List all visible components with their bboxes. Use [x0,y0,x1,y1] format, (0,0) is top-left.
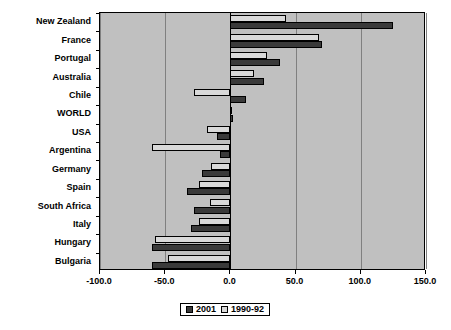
bar-2001 [202,170,231,177]
bar-2001 [187,188,230,195]
category-label: Chile [69,90,91,100]
bar-1990-92 [230,52,267,59]
bar-1990-92 [168,255,231,262]
bar-2001 [217,133,230,140]
bar-group [100,234,424,252]
category-tick [96,197,100,198]
category-tick [96,234,100,235]
category-label: Hungary [54,237,91,247]
plot-area [99,12,425,270]
bar-group [100,50,424,68]
bar-group [100,216,424,234]
category-label: France [61,35,91,45]
category-tick [96,31,100,32]
value-tick [360,270,361,274]
bar-group [100,253,424,271]
category-tick [96,87,100,88]
dark-square-swatch [186,306,193,313]
bar-1990-92 [230,34,319,41]
category-tick [96,253,100,254]
bar-1990-92 [207,126,230,133]
legend-label: 1990-92 [231,304,264,314]
bar-group [100,124,424,142]
bar-1990-92 [230,107,232,114]
category-label: Argentina [49,145,91,155]
category-tick [96,160,100,161]
category-label: South Africa [38,201,91,211]
bar-group [100,105,424,123]
bar-2001 [230,78,264,85]
bar-2001 [230,41,321,48]
bar-group [100,13,424,31]
bar-1990-92 [230,15,286,22]
bar-2001 [230,115,233,122]
bar-2001 [230,22,393,29]
bar-2001 [230,59,280,66]
bar-group [100,31,424,49]
bar-2001 [220,151,230,158]
bar-1990-92 [199,218,230,225]
category-label: Australia [52,72,91,82]
bar-chart: New ZealandFrancePortugalAustraliaChileW… [0,0,451,330]
value-tick-label: -100.0 [69,276,129,286]
value-tick-label: 0.0 [199,276,259,286]
bar-1990-92 [211,163,231,170]
category-tick [96,179,100,180]
bar-1990-92 [199,181,230,188]
value-tick [229,270,230,274]
bar-2001 [152,262,230,269]
category-tick [96,216,100,217]
category-label: Bulgaria [55,256,91,266]
category-label: Germany [52,164,91,174]
bar-group [100,179,424,197]
bar-1990-92 [230,70,253,77]
bar-1990-92 [152,144,230,151]
bar-group [100,197,424,215]
value-tick-label: -50.0 [134,276,194,286]
value-tick [425,270,426,274]
category-label: Spain [66,182,91,192]
category-axis-labels: New ZealandFrancePortugalAustraliaChileW… [0,12,95,270]
category-label: Portugal [54,53,91,63]
bar-2001 [230,96,246,103]
category-label: New Zealand [36,16,91,26]
light-square-swatch [221,306,228,313]
legend-label: 2001 [196,304,216,314]
category-tick [96,142,100,143]
bar-rows [100,13,424,269]
value-tick [99,270,100,274]
gridline [426,13,427,269]
bar-group [100,68,424,86]
chart-legend: 2001 1990-92 [180,303,270,316]
category-label: USA [72,127,91,137]
category-tick [96,50,100,51]
value-tick [295,270,296,274]
value-tick [164,270,165,274]
category-tick [96,13,100,14]
category-tick [96,124,100,125]
bar-2001 [194,207,231,214]
value-tick-label: 50.0 [265,276,325,286]
bar-1990-92 [194,89,231,96]
bar-1990-92 [155,236,231,243]
value-tick-label: 100.0 [330,276,390,286]
bar-group [100,142,424,160]
legend-item-1990-92: 1990-92 [221,304,264,314]
category-label: Italy [73,219,91,229]
legend-item-2001: 2001 [186,304,216,314]
bar-group [100,87,424,105]
bar-2001 [152,244,230,251]
bar-2001 [191,225,230,232]
value-tick-label: 150.0 [395,276,451,286]
category-tick [96,105,100,106]
category-label: WORLD [57,108,91,118]
bar-1990-92 [210,199,231,206]
bar-group [100,160,424,178]
category-tick [96,68,100,69]
